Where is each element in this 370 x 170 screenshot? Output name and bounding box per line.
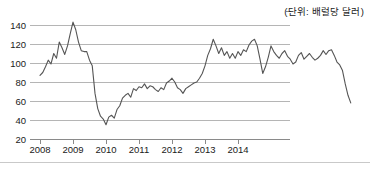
x-axis-label-2011: 2011 <box>122 144 156 155</box>
x-axis-label-2013: 2013 <box>188 144 222 155</box>
figure-bottom-divider <box>0 162 370 163</box>
x-axis-label-2010: 2010 <box>89 144 123 155</box>
x-axis-label-2012: 2012 <box>155 144 189 155</box>
oil-price-chart-figure: (단위: 배럴당 달러) 20406080100120140 200820092… <box>0 0 370 170</box>
chart-plot-area: 20406080100120140 2008200920102011201220… <box>0 0 370 170</box>
y-axis-label-140: 140 <box>2 20 26 31</box>
x-axis-label-2009: 2009 <box>56 144 90 155</box>
chart-series-line-oil-price <box>40 22 351 125</box>
y-axis-label-60: 60 <box>2 96 26 107</box>
y-axis-label-100: 100 <box>2 58 26 69</box>
y-axis-label-120: 120 <box>2 39 26 50</box>
y-axis-label-40: 40 <box>2 115 26 126</box>
x-axis-label-2008: 2008 <box>23 144 57 155</box>
y-axis-label-80: 80 <box>2 77 26 88</box>
x-axis-label-2014: 2014 <box>221 144 255 155</box>
y-axis-label-20: 20 <box>2 134 26 145</box>
